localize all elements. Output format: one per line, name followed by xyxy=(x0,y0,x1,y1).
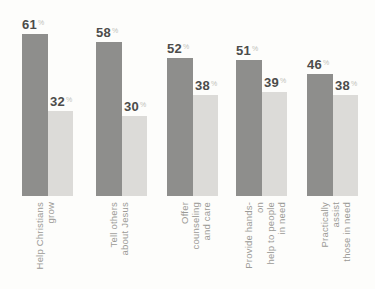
percent-sign: % xyxy=(38,19,44,26)
value-number: 46 xyxy=(307,57,322,72)
bar-secondary xyxy=(193,95,218,196)
percent-sign: % xyxy=(252,45,258,52)
percent-sign: % xyxy=(112,27,118,34)
value-number: 38 xyxy=(335,78,350,93)
value-label-secondary: 38% xyxy=(335,75,357,93)
percent-sign: % xyxy=(66,96,72,103)
category-label: Offer counseling and care xyxy=(179,202,212,274)
category-label: Help Christians grow xyxy=(34,202,56,274)
value-number: 61 xyxy=(22,17,37,32)
percent-sign: % xyxy=(351,80,357,87)
percent-sign: % xyxy=(183,43,189,50)
value-number: 51 xyxy=(236,43,251,58)
bar-chart: 61%32%Help Christians grow58%30%Tell oth… xyxy=(0,0,375,289)
bar-primary xyxy=(96,42,122,196)
value-number: 39 xyxy=(264,75,279,90)
value-label-secondary: 30% xyxy=(124,96,146,114)
bar-primary xyxy=(236,60,262,196)
bar-primary xyxy=(307,74,333,196)
bar-secondary xyxy=(333,95,358,196)
category-label: Practically assist those in need xyxy=(319,202,352,274)
value-label-secondary: 39% xyxy=(264,72,286,90)
percent-sign: % xyxy=(323,59,329,66)
percent-sign: % xyxy=(140,101,146,108)
value-label-primary: 58% xyxy=(96,22,118,40)
bar-secondary xyxy=(262,92,287,196)
value-label-primary: 46% xyxy=(307,54,329,72)
value-label-primary: 52% xyxy=(167,38,189,56)
value-label-primary: 51% xyxy=(236,40,258,58)
bar-primary xyxy=(167,58,193,196)
value-number: 32 xyxy=(50,94,65,109)
value-number: 38 xyxy=(195,78,210,93)
category-label: Tell others about Jesus xyxy=(108,202,130,274)
value-number: 52 xyxy=(167,41,182,56)
bar-secondary xyxy=(122,116,147,196)
value-label-secondary: 38% xyxy=(195,75,217,93)
bar-secondary xyxy=(48,111,73,196)
bar-primary xyxy=(22,34,48,196)
percent-sign: % xyxy=(211,80,217,87)
category-label: Provide hands-on help to people in need xyxy=(243,202,287,274)
value-number: 30 xyxy=(124,99,139,114)
value-label-primary: 61% xyxy=(22,14,44,32)
percent-sign: % xyxy=(280,77,286,84)
value-label-secondary: 32% xyxy=(50,91,72,109)
value-number: 58 xyxy=(96,25,111,40)
